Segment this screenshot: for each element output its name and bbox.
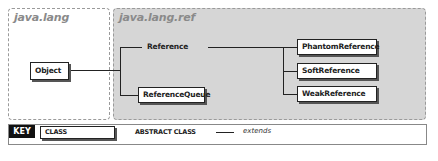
class-object[interactable]: Object — [30, 62, 69, 80]
legend-abstract-class-sample: ABSTRACT CLASS — [127, 126, 205, 140]
legend-abstract-text: ABSTRACT CLASS — [135, 128, 196, 136]
class-soft-reference[interactable]: SoftReference — [297, 63, 377, 79]
legend-extends-text: extends — [243, 127, 271, 135]
connector-line — [68, 70, 121, 71]
package-java-lang-ref: java.lang.ref — [113, 8, 426, 120]
class-reference-queue[interactable]: ReferenceQueue — [138, 87, 205, 103]
legend-key-label: KEY — [9, 125, 35, 138]
connector-line — [120, 47, 121, 95]
connector-line — [208, 47, 284, 48]
class-name: WeakReference — [302, 89, 365, 98]
class-phantom-reference[interactable]: PhantomReference — [297, 39, 377, 55]
legend-extends-line — [216, 132, 234, 133]
package-title: java.lang — [14, 11, 69, 24]
connector-line — [283, 94, 297, 95]
legend-class-text: CLASS — [45, 128, 67, 136]
class-name: Reference — [147, 42, 188, 51]
class-name: PhantomReference — [302, 42, 379, 51]
class-name: ReferenceQueue — [143, 90, 210, 99]
connector-line — [283, 47, 297, 48]
connector-line — [283, 71, 297, 72]
connector-line — [120, 95, 138, 96]
abstract-class-reference[interactable]: Reference — [139, 39, 211, 55]
class-name: SoftReference — [302, 66, 360, 75]
class-weak-reference[interactable]: WeakReference — [297, 86, 377, 102]
legend-class-sample: CLASS — [40, 126, 115, 139]
class-name: Object — [35, 66, 61, 75]
package-title: java.lang.ref — [119, 11, 195, 24]
legend: KEY CLASS ABSTRACT CLASS extends — [8, 124, 427, 145]
